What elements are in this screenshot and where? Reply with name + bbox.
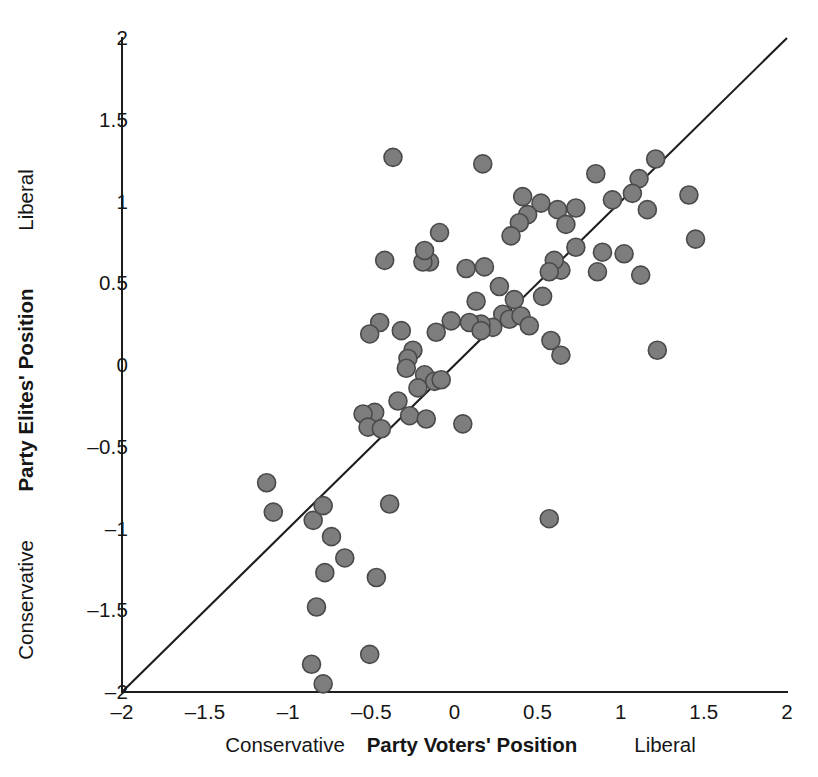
x-tick-label: 0.5 <box>523 700 552 724</box>
data-point <box>303 655 321 673</box>
data-point <box>401 407 419 425</box>
data-point <box>534 287 552 305</box>
data-point <box>314 497 332 515</box>
data-point <box>417 410 435 428</box>
data-point <box>336 549 354 567</box>
data-point <box>474 155 492 173</box>
y-tick-label: 1.5 <box>99 108 128 132</box>
y-tick-label: 2 <box>116 26 128 50</box>
x-axis-title: Party Voters' Position <box>367 733 578 757</box>
data-point <box>258 474 276 492</box>
scatter-plot-figure: –2–1.5–1–0.500.511.52 –2–1.5–1–0.500.511… <box>0 0 818 777</box>
data-point <box>384 148 402 166</box>
data-point <box>314 675 332 693</box>
y-tick-label: –0.5 <box>87 435 128 459</box>
data-point <box>427 323 445 341</box>
data-point <box>361 645 379 663</box>
data-point <box>432 371 450 389</box>
data-point <box>376 251 394 269</box>
data-point <box>367 569 385 587</box>
data-point <box>540 263 558 281</box>
data-point <box>475 258 493 276</box>
x-tick-label: 1 <box>615 700 627 724</box>
data-point <box>647 150 665 168</box>
y-tick-label: 0.5 <box>99 271 128 295</box>
data-point <box>540 510 558 528</box>
x-tick-label: 2 <box>781 700 793 724</box>
data-point <box>457 260 475 278</box>
data-point <box>588 263 606 281</box>
data-point <box>552 346 570 364</box>
data-point <box>409 379 427 397</box>
data-point <box>316 564 334 582</box>
data-point <box>264 503 282 521</box>
data-point <box>623 184 641 202</box>
x-tick-label: 0 <box>449 700 461 724</box>
y-axis-low-label: Conservative <box>14 540 38 660</box>
data-point <box>520 317 538 335</box>
data-point <box>361 325 379 343</box>
data-point <box>502 227 520 245</box>
data-point <box>632 266 650 284</box>
data-point <box>514 188 532 206</box>
data-point <box>454 415 472 433</box>
data-point <box>442 312 460 330</box>
y-axis-title: Party Elites' Position <box>14 288 38 491</box>
data-points-group <box>258 148 705 692</box>
data-point <box>381 495 399 513</box>
x-axis-low-label: Conservative <box>225 733 345 757</box>
data-point <box>467 292 485 310</box>
y-tick-label: 0 <box>116 353 128 377</box>
data-point <box>389 392 407 410</box>
data-point <box>615 245 633 263</box>
data-point <box>567 199 585 217</box>
y-axis-high-label: Liberal <box>14 169 38 231</box>
x-tick-label: 1.5 <box>689 700 718 724</box>
data-point <box>557 215 575 233</box>
data-point <box>431 224 449 242</box>
y-tick-label: –2 <box>105 680 128 704</box>
data-point <box>648 341 666 359</box>
y-tick-label: 1 <box>116 190 128 214</box>
data-point <box>687 230 705 248</box>
data-point <box>593 243 611 261</box>
data-point <box>680 186 698 204</box>
x-tick-label: –1.5 <box>185 700 226 724</box>
data-point <box>603 191 621 209</box>
data-point <box>472 322 490 340</box>
x-tick-label: –0.5 <box>351 700 392 724</box>
data-point <box>490 278 508 296</box>
data-point <box>397 359 415 377</box>
reference-diagonal-line <box>122 38 787 692</box>
data-point <box>308 598 326 616</box>
data-point <box>372 420 390 438</box>
data-point <box>505 291 523 309</box>
y-tick-label: –1 <box>105 517 128 541</box>
data-point <box>587 165 605 183</box>
data-point <box>392 322 410 340</box>
y-tick-label: –1.5 <box>87 598 128 622</box>
data-point <box>567 238 585 256</box>
data-point <box>638 201 656 219</box>
x-axis-high-label: Liberal <box>634 733 696 757</box>
x-tick-label: –1 <box>277 700 300 724</box>
data-point <box>322 528 340 546</box>
data-point <box>416 242 434 260</box>
